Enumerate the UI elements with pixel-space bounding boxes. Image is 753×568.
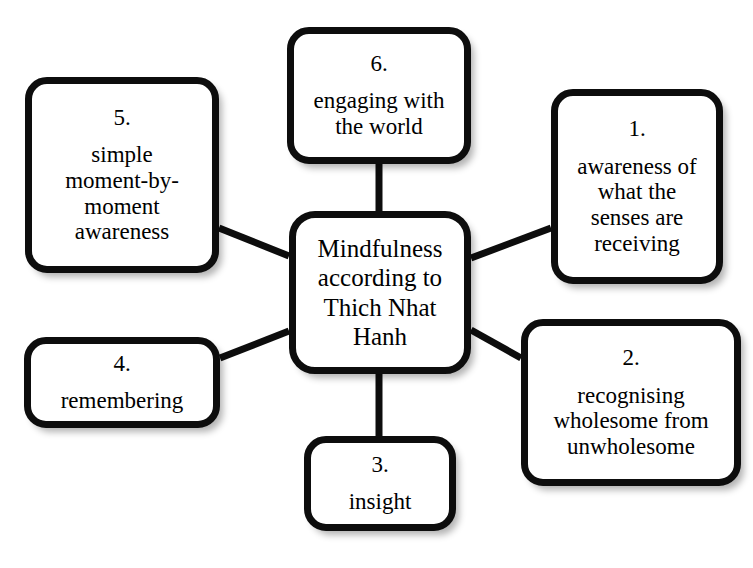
- connector-center-to-node-5: [219, 228, 289, 256]
- center-node-mindfulness[interactable]: Mindfulness according to Thich Nhat Hanh: [289, 211, 471, 374]
- node-6-engaging-with-the-world[interactable]: 6. engaging with the world: [287, 27, 471, 164]
- node-4-remembering[interactable]: 4. remembering: [24, 337, 220, 428]
- node-2-index: 2.: [622, 345, 639, 371]
- node-1-index: 1.: [628, 116, 645, 142]
- node-1-label: awareness of what the senses are receivi…: [577, 154, 696, 257]
- connector-center-to-node-4: [220, 331, 289, 358]
- node-3-label: insight: [349, 489, 412, 515]
- node-3-index: 3.: [371, 452, 388, 478]
- node-1-awareness-of-senses[interactable]: 1. awareness of what the senses are rece…: [551, 89, 723, 284]
- node-2-label: recognising wholesome from unwholesome: [553, 383, 708, 460]
- mind-map-diagram: Mindfulness according to Thich Nhat Hanh…: [0, 0, 753, 568]
- node-5-index: 5.: [113, 105, 130, 131]
- node-3-insight[interactable]: 3. insight: [304, 436, 456, 531]
- connector-center-to-node-1: [471, 228, 551, 258]
- connector-center-to-node-2: [471, 330, 521, 358]
- node-6-index: 6.: [370, 51, 387, 77]
- node-2-recognising-wholesome[interactable]: 2. recognising wholesome from unwholesom…: [521, 319, 741, 486]
- node-5-moment-by-moment-awareness[interactable]: 5. simple moment-by- moment awareness: [25, 77, 219, 273]
- node-6-label: engaging with the world: [314, 88, 445, 140]
- node-5-label: simple moment-by- moment awareness: [65, 142, 179, 245]
- center-node-label: Mindfulness according to Thich Nhat Hanh: [296, 234, 464, 352]
- node-4-label: remembering: [61, 388, 184, 414]
- node-4-index: 4.: [113, 351, 130, 377]
